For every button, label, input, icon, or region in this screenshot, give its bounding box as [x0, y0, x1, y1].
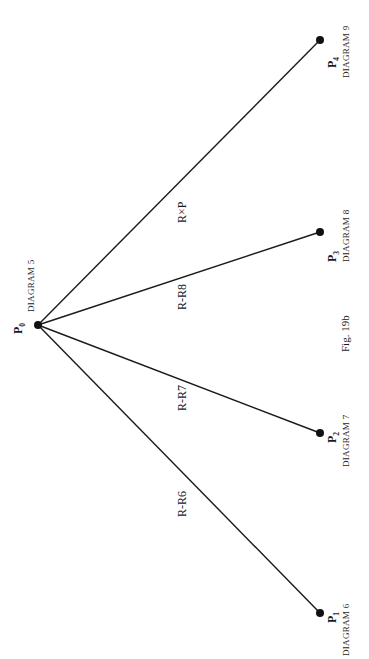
node-dot-p3 [316, 228, 324, 236]
edge-label-p3-group: R-R8 [175, 284, 189, 310]
edge-label-p2-group: R-R7 [175, 385, 189, 411]
node-label-p1: P1 [325, 612, 341, 623]
node-label-p0: P0 [11, 323, 27, 334]
edge-p0-p3 [38, 232, 320, 325]
nodes [34, 36, 324, 617]
node-dot-p2 [316, 429, 324, 437]
node-label-p4: P4 [325, 57, 341, 68]
edge-p0-p2 [38, 325, 320, 433]
figure-caption: Fig. 19b [339, 315, 351, 352]
edge-label-r-r7: R-R7 [175, 385, 189, 411]
node-p4-labels: P4 [325, 57, 341, 68]
edge-label-p1-group: R-R6 [175, 491, 189, 517]
edge-p0-p1 [38, 325, 320, 613]
diagram-label-p2: DIAGRAM 7 [341, 414, 351, 467]
node-p2-diagram: DIAGRAM 7 [341, 414, 351, 467]
node-p0-diagram: DIAGRAM 5 [26, 259, 36, 312]
node-p1-diagram: DIAGRAM 6 [341, 603, 351, 656]
diagram-label-p1: DIAGRAM 6 [341, 603, 351, 656]
diagram-label-p0: DIAGRAM 5 [26, 259, 36, 312]
node-dot-p1 [316, 609, 324, 617]
node-dot-p4 [316, 36, 324, 44]
diagram-label-p4: DIAGRAM 9 [341, 25, 351, 78]
edge-label-r-r6: R-R6 [175, 491, 189, 517]
node-dot-p0 [34, 321, 42, 329]
edges [38, 40, 320, 613]
edge-p0-p4 [38, 40, 320, 325]
move-tree-diagram: P0 DIAGRAM 5 P1 DIAGRAM 6 P2 DIAGRAM 7 P… [0, 0, 369, 659]
node-p0-labels: P0 [11, 323, 27, 334]
node-p3-diagram: DIAGRAM 8 [341, 209, 351, 262]
edge-label-r-r8: R-R8 [175, 284, 189, 310]
edge-label-p4-group: R×P [175, 201, 189, 223]
node-p3-labels: P3 [325, 251, 341, 262]
node-p1-labels: P1 [325, 612, 341, 623]
node-label-p2: P2 [325, 432, 341, 443]
figure-caption-group: Fig. 19b [339, 315, 351, 352]
node-p4-diagram: DIAGRAM 9 [341, 25, 351, 78]
diagram-label-p3: DIAGRAM 8 [341, 209, 351, 262]
node-p2-labels: P2 [325, 432, 341, 443]
edge-label-rxp: R×P [175, 201, 189, 223]
node-label-p3: P3 [325, 251, 341, 262]
